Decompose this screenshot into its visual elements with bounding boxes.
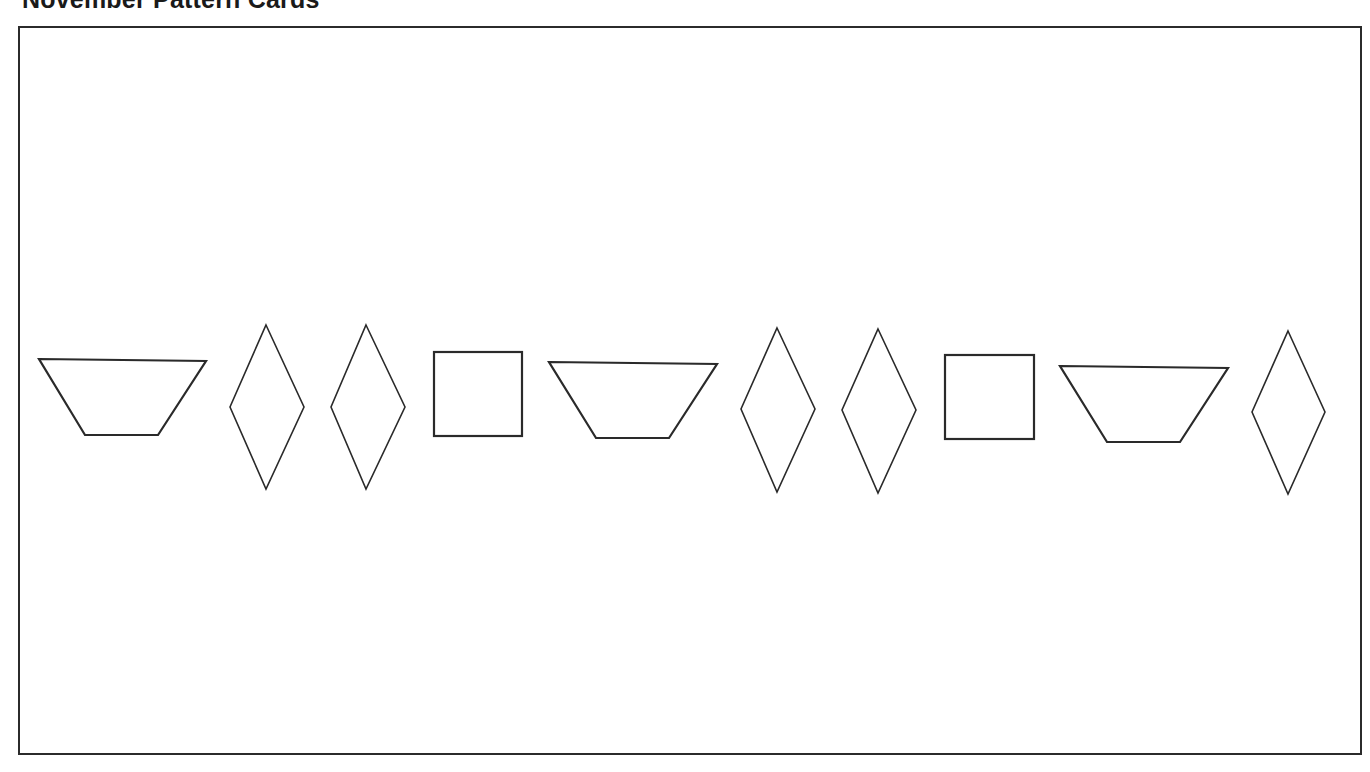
pattern-card-frame — [18, 26, 1362, 755]
page-title: November Pattern Cards — [22, 0, 320, 14]
